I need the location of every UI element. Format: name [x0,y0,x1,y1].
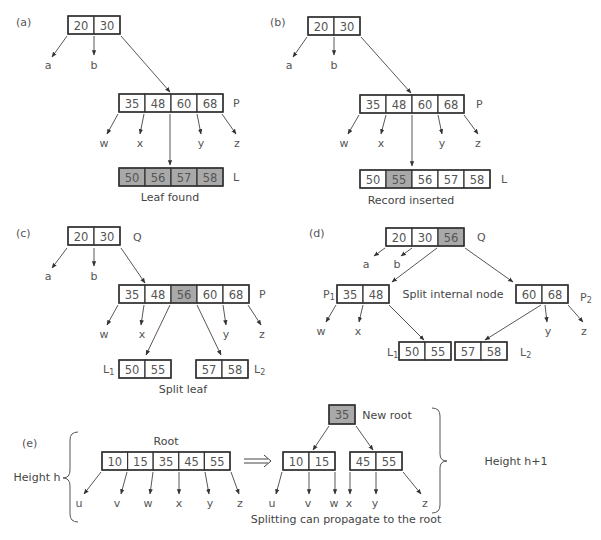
pointer-arrow-icon [121,248,145,283]
panel-tag-b: (b) [270,16,286,29]
tree-node-P2: 6068 [516,285,568,303]
tree-node-left-child: 1015 [283,452,335,470]
panel-caption-e: Splitting can propagate to the root [251,513,442,526]
key-value: 55 [151,363,166,377]
height-right-label: Height h+1 [484,455,547,468]
pointer-arrow-icon [276,472,282,494]
key-value: 15 [315,455,330,469]
subtree-pointer-label: b [331,59,338,72]
key-value: 55 [392,173,407,187]
node-label-P: P [259,288,266,301]
key-value: 68 [229,288,244,302]
tree-node-Q: 2030 [68,227,120,245]
node-label-P: P [476,98,483,111]
subtree-pointer-label: z [422,497,428,510]
tree-node-L1: 5055 [119,360,171,378]
node-label-P1: P1 [323,288,335,302]
pointer-arrow-icon [121,472,127,494]
key-value: 15 [133,455,148,469]
key-value: 68 [548,288,563,302]
pointer-arrow-icon [150,472,153,494]
key-value: 58 [487,345,502,359]
node-label-L: L [501,173,508,186]
panel-tag-d: (d) [309,227,325,240]
pointer-arrow-icon [359,305,363,322]
pointer-arrow-icon [293,37,307,57]
tree-node-root-old: 1015354555 [102,452,230,470]
subtree-pointer-label: y [439,137,446,150]
subtree-pointer-label: w [340,137,349,150]
subtree-pointer-label: x [355,325,362,338]
key-value: 48 [392,98,407,112]
key-value: 58 [228,363,243,377]
pointer-arrow-icon [141,305,144,325]
key-value: 30 [100,230,115,244]
subtree-pointer-label: u [269,497,276,510]
key-value: 35 [159,455,174,469]
bplus-tree-insertion-diagram: 2030354860685056575820303548606850555657… [0,0,601,540]
pointer-arrow-icon [205,472,209,494]
tree-node-L2: 5758 [196,360,248,378]
key-value: 20 [392,231,407,245]
node-label-P2: P2 [580,291,592,305]
key-value: 57 [202,363,217,377]
subtree-pointer-label: a [286,59,293,72]
pointer-arrow-icon [403,472,421,494]
pointer-arrow-icon [374,248,385,256]
pointer-arrow-icon [313,426,329,450]
key-value: 68 [203,97,218,111]
tree-node-root: 2030 [68,16,120,34]
key-value: 20 [74,19,89,33]
key-value: 58 [203,171,218,185]
node-label-Q: Q [133,231,142,244]
subtree-pointer-label: x [176,497,183,510]
pointer-arrow-icon [231,472,239,494]
labels-layer: (a)PLabwxyzLeaf found(b)PLabwxyzRecord i… [14,16,592,526]
tree-node-L1: 5055 [399,342,451,360]
tree-node-P: 3548566068 [119,285,249,303]
pointer-arrow-icon [545,305,547,322]
key-value: 35 [343,288,358,302]
panel-caption-a: Leaf found [141,191,199,204]
key-value: 57 [461,345,476,359]
tree-node-L: 5055565758 [360,170,490,188]
subtree-pointer-label: w [100,137,109,150]
pointer-arrow-icon [197,305,221,355]
node-label-L2: L2 [254,363,265,377]
pointer-arrow-icon [464,115,478,134]
key-value: 55 [210,455,225,469]
pointer-arrow-icon [356,426,373,450]
node-label-L: L [233,171,240,184]
subtree-pointer-label: b [91,270,98,283]
key-value: 45 [184,455,199,469]
node-label-L1: L1 [103,363,114,377]
tree-node-P: 35486068 [119,94,223,112]
pointer-arrow-icon [222,114,236,134]
key-value: 60 [203,288,218,302]
subtree-pointer-label: w [144,497,153,510]
pointer-arrow-icon [84,472,101,494]
key-value: 30 [100,19,115,33]
key-value: 55 [431,345,446,359]
pointer-arrow-icon [52,36,67,57]
pointer-arrow-icon [465,248,513,282]
nodes-layer: 2030354860685056575820303548606850555657… [68,16,568,470]
key-value: 57 [177,171,192,185]
subtree-pointer-label: x [137,137,144,150]
pointer-arrow-icon [107,305,118,325]
subtree-pointer-label: z [259,328,265,341]
panel-tag-e: (e) [22,437,37,450]
pointer-arrow-icon [146,305,170,355]
key-value: 20 [74,230,89,244]
key-value: 30 [418,231,433,245]
pointer-arrow-icon [389,305,424,340]
pointer-arrow-icon [485,305,541,340]
subtree-pointer-label: x [378,137,385,150]
key-value: 56 [444,231,459,245]
subtree-pointer-label: w [330,497,339,510]
key-value: 57 [444,173,459,187]
subtree-pointer-label: x [139,328,146,341]
key-value: 35 [125,288,140,302]
key-value: 45 [356,455,371,469]
panel-caption-d: Split internal node [402,288,503,301]
